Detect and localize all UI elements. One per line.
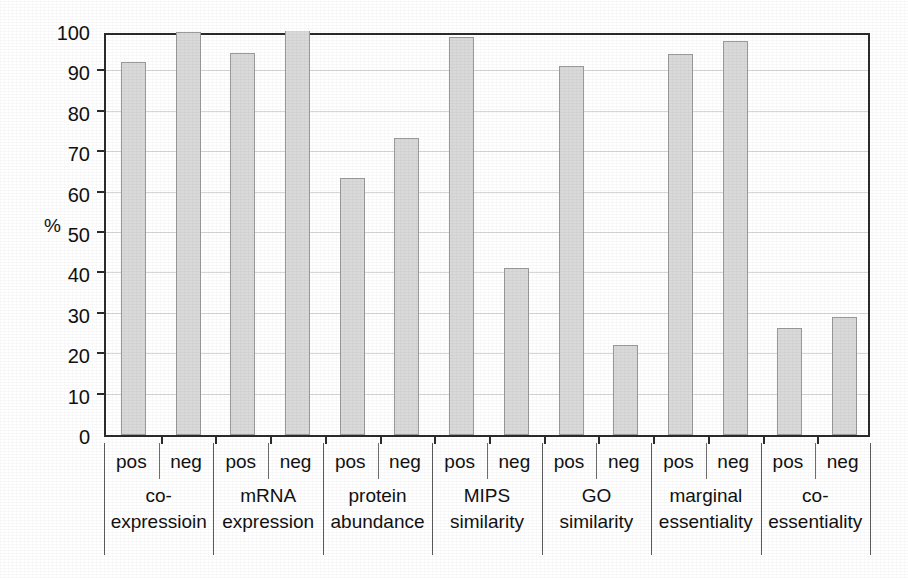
x-axis-category-label: MIPSsimilarity [432, 483, 541, 553]
chart-figure: % 0102030405060708090100 posnegco-expres… [0, 0, 908, 578]
bar [340, 178, 365, 435]
y-axis-tick-label: 40 [44, 265, 90, 285]
bar [230, 53, 255, 435]
x-axis-category-label-line: marginal [669, 483, 742, 509]
bar [504, 268, 529, 435]
x-axis-subcategory-label: neg [378, 446, 433, 478]
gridline [106, 272, 868, 273]
bar [449, 37, 474, 435]
y-axis-tick-label: 20 [44, 346, 90, 366]
x-axis-subcategory-label: pos [323, 446, 378, 478]
x-axis-category-label-line: MIPS [464, 483, 510, 509]
x-axis-subcategory-label: neg [487, 446, 542, 478]
y-axis-tick-mark [97, 150, 106, 152]
y-axis-tick-mark [97, 312, 106, 314]
x-axis-subcategory-label: pos [761, 446, 816, 478]
x-axis-subcategory-label: neg [159, 446, 214, 478]
x-axis-category-label: co-essentiality [761, 483, 870, 553]
x-axis-subcategory-label: pos [104, 446, 159, 478]
bar [559, 66, 584, 435]
x-axis-category-label-line: essentiality [659, 509, 753, 535]
y-axis-tick-mark [97, 231, 106, 233]
plot-area [104, 33, 870, 437]
x-axis-subcategory-label: neg [706, 446, 761, 478]
y-axis-tick-labels: 0102030405060708090100 [44, 0, 96, 578]
y-axis-tick-label: 10 [44, 387, 90, 407]
y-axis-tick-label: 100 [44, 23, 90, 43]
y-axis-tick-mark [97, 352, 106, 354]
x-axis-subcategory-label: pos [542, 446, 597, 478]
x-axis-category-label-line: expression [222, 509, 314, 535]
bar [832, 317, 857, 435]
bar [668, 54, 693, 435]
bar [777, 328, 802, 435]
bar [723, 41, 748, 435]
gridline [106, 394, 868, 395]
y-axis-tick-mark [97, 271, 106, 273]
bar [285, 31, 310, 435]
x-axis-category-label: marginalessentiality [651, 483, 760, 553]
y-axis-tick-mark [97, 393, 106, 395]
x-axis-category-label: co-expressioin [104, 483, 213, 553]
x-axis-subcategory-label: pos [432, 446, 487, 478]
y-axis-tick-label: 30 [44, 306, 90, 326]
x-axis-subcategory-label: neg [596, 446, 651, 478]
x-axis-label-table: posnegco-expressioinposnegmRNAexpression… [104, 443, 870, 555]
bar [121, 62, 146, 435]
y-axis-tick-label: 80 [44, 104, 90, 124]
x-axis-category-label-line: expressioin [111, 509, 207, 535]
gridline [106, 151, 868, 152]
y-axis-tick-label: 70 [44, 144, 90, 164]
x-axis-category-label: mRNAexpression [213, 483, 322, 553]
x-axis-category-label-line: GO [582, 483, 612, 509]
y-axis-tick-mark [97, 69, 106, 71]
x-axis-subcategory-label: pos [213, 446, 268, 478]
gridline [106, 70, 868, 71]
bar [394, 138, 419, 435]
x-axis-category-label-line: co- [146, 483, 172, 509]
bar [613, 345, 638, 435]
y-axis-tick-label: 60 [44, 185, 90, 205]
x-axis-category-label-line: co- [802, 483, 828, 509]
y-axis-tick-label: 90 [44, 63, 90, 83]
x-axis-category-label-line: mRNA [240, 483, 296, 509]
y-axis-tick-mark [97, 110, 106, 112]
gridline [106, 192, 868, 193]
x-axis-subcategory-label: neg [268, 446, 323, 478]
label-group-divider [870, 443, 871, 555]
x-axis-category-label-line: abundance [331, 509, 425, 535]
gridline [106, 111, 868, 112]
x-axis-category-label-line: similarity [450, 509, 524, 535]
x-axis-category-label: GOsimilarity [542, 483, 651, 553]
x-axis-subcategory-label: pos [651, 446, 706, 478]
x-axis-category-label-line: protein [349, 483, 407, 509]
y-axis-tick-label: 50 [44, 225, 90, 245]
gridline [106, 313, 868, 314]
y-axis-tick-mark [97, 191, 106, 193]
x-axis-category-label-line: similarity [559, 509, 633, 535]
x-axis-subcategory-label: neg [815, 446, 870, 478]
gridline [106, 232, 868, 233]
gridline [106, 353, 868, 354]
x-axis-category-label: proteinabundance [323, 483, 432, 553]
bar [176, 32, 201, 435]
x-axis-category-label-line: essentiality [768, 509, 862, 535]
y-axis-tick-label: 0 [44, 427, 90, 447]
